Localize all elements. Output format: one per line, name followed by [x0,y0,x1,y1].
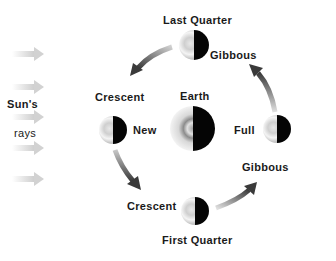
orbit-arrow-icon [115,150,141,190]
moon-full-icon [263,115,291,143]
earth-label: Earth [180,90,210,102]
earth-icon [170,106,215,151]
sun-ray-arrow-icon [12,172,44,186]
moon-first-quarter-icon [181,197,209,225]
orbit-arrow-icon [249,64,275,112]
phase-label-crescent-waxing: Crescent [127,200,176,212]
sun-ray-arrow-icon [12,141,44,155]
phase-label-gibbous-waning: Gibbous [210,49,257,61]
sun-ray-arrow-icon [12,110,44,124]
moon-last-quarter-icon [179,30,209,60]
phase-label-crescent-waning: Crescent [95,91,144,103]
sun-ray-arrow-icon [12,80,44,94]
moon-new-icon [99,116,127,144]
phase-label-new: New [133,124,157,136]
sun-rays-label-line1: Sun's [7,98,38,110]
phase-label-first-quarter: First Quarter [162,234,233,246]
phase-label-last-quarter: Last Quarter [163,14,232,26]
orbit-arrow-icon [130,47,172,76]
sun-rays-label-line2: rays [14,127,36,139]
phase-label-full: Full [234,124,255,136]
orbit-arrow-icon [216,182,257,208]
sun-ray-arrow-icon [12,47,44,61]
phase-label-gibbous-waxing: Gibbous [242,161,289,173]
